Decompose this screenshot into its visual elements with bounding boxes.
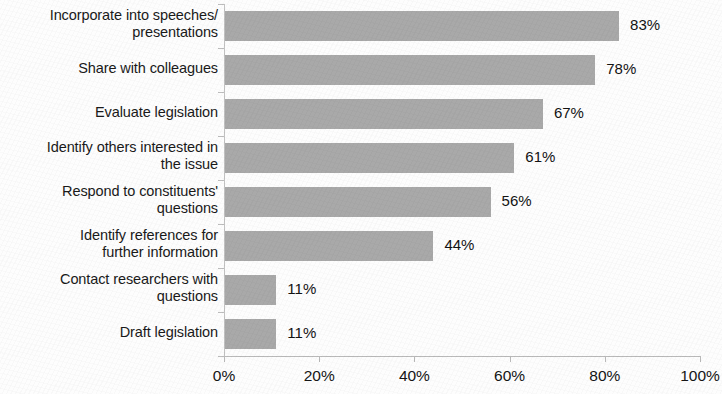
bar-value-label: 78% [606, 60, 636, 78]
bar-value-label: 83% [630, 16, 660, 34]
chart-bar [224, 319, 276, 349]
category-axis-label: Contact researchers with questions [0, 271, 218, 305]
y-axis-tick [218, 224, 224, 225]
category-axis-label: Identify references for further informat… [0, 227, 218, 261]
chart-category-row: Identify others interested in the issue6… [0, 136, 722, 180]
y-axis-tick [218, 312, 224, 313]
chart-category-row: Contact researchers with questions11% [0, 268, 722, 312]
chart-category-row: Respond to constituents' questions56% [0, 180, 722, 224]
x-axis-tick [510, 356, 511, 362]
chart-bar [224, 99, 543, 129]
bar-value-label: 44% [444, 236, 474, 254]
x-axis-tick [414, 356, 415, 362]
bar-value-label: 67% [554, 104, 584, 122]
y-axis-tick [218, 136, 224, 137]
bar-value-label: 61% [525, 148, 555, 166]
category-axis-label: Incorporate into speeches/ presentations [0, 7, 218, 41]
category-axis-label: Share with colleagues [0, 60, 218, 77]
x-axis-tick-label: 40% [399, 366, 430, 385]
category-axis-label: Identify others interested in the issue [0, 139, 218, 173]
x-axis-tick-label: 20% [304, 366, 335, 385]
y-axis-tick [218, 4, 224, 5]
chart-bar [224, 275, 276, 305]
x-axis-tick-label: 60% [494, 366, 525, 385]
x-axis-tick-label: 0% [213, 366, 235, 385]
bar-value-label: 56% [502, 192, 532, 210]
x-axis-tick [605, 356, 606, 362]
chart-category-row: Share with colleagues78% [0, 48, 722, 92]
y-axis-tick [218, 92, 224, 93]
x-axis-tick [224, 356, 225, 362]
chart-bar [224, 55, 595, 85]
x-axis-line [224, 356, 701, 357]
bar-value-label: 11% [287, 324, 316, 342]
chart-bar [224, 231, 433, 261]
y-axis-line [224, 4, 225, 357]
category-axis-label: Draft legislation [0, 324, 218, 341]
y-axis-tick [218, 180, 224, 181]
category-axis-label: Respond to constituents' questions [0, 183, 218, 217]
x-axis-tick [700, 356, 701, 362]
horizontal-bar-chart: Incorporate into speeches/ presentations… [0, 0, 722, 394]
category-axis-label: Evaluate legislation [0, 104, 218, 121]
chart-category-row: Draft legislation11% [0, 312, 722, 356]
chart-category-row: Incorporate into speeches/ presentations… [0, 4, 722, 48]
chart-bar [224, 187, 491, 217]
y-axis-tick [218, 268, 224, 269]
chart-category-row: Identify references for further informat… [0, 224, 722, 268]
x-axis-tick-label: 100% [680, 366, 720, 385]
y-axis-tick [218, 48, 224, 49]
bar-value-label: 11% [287, 280, 316, 298]
x-axis-tick [319, 356, 320, 362]
x-axis-tick-label: 80% [589, 366, 620, 385]
chart-bar [224, 11, 619, 41]
chart-bar [224, 143, 514, 173]
chart-category-row: Evaluate legislation67% [0, 92, 722, 136]
